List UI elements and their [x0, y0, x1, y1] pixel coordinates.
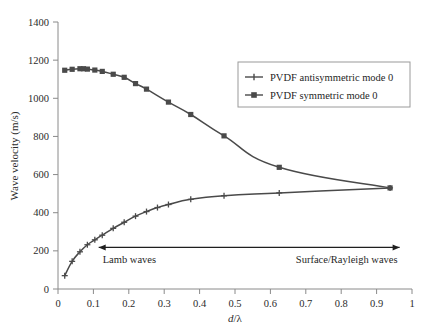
x-tick-label: 0.8	[335, 298, 348, 309]
figure-container: 0200400600800100012001400 00.10.20.30.40…	[0, 0, 430, 332]
x-tick-label: 1	[409, 298, 414, 309]
data-point-marker	[221, 133, 226, 138]
x-tick-label: 0.9	[370, 298, 383, 309]
y-axis-label: Wave velocity (m/s)	[8, 111, 21, 200]
chart-legend: PVDF antisymmetric mode 0PVDF symmetric …	[238, 62, 410, 107]
data-point-marker	[100, 69, 105, 74]
data-point-marker	[387, 185, 392, 190]
x-tick-label: 0.4	[193, 298, 207, 309]
y-tick-label: 1000	[28, 93, 49, 104]
x-tick-label: 0.5	[228, 298, 241, 309]
legend-entry-label: PVDF antisymmetric mode 0	[270, 72, 393, 83]
data-point-marker	[111, 72, 116, 77]
legend-entry-label: PVDF symmetric mode 0	[270, 90, 378, 101]
legend-square-marker-icon	[251, 92, 257, 98]
data-point-marker	[166, 100, 171, 105]
data-point-marker	[85, 67, 90, 72]
annotation-label-left: Lamb waves	[103, 254, 156, 265]
data-point-marker	[70, 67, 75, 72]
x-tick-label: 0.3	[158, 298, 171, 309]
data-point-marker	[122, 75, 127, 80]
x-tick-label: 0.7	[299, 298, 312, 309]
y-tick-label: 1200	[28, 55, 49, 66]
data-point-marker	[144, 87, 149, 92]
caption-strip	[0, 322, 430, 332]
data-point-marker	[133, 81, 138, 86]
y-tick-label: 200	[33, 245, 49, 256]
data-point-marker	[277, 165, 282, 170]
wave-velocity-chart: 0200400600800100012001400 00.10.20.30.40…	[0, 0, 430, 332]
y-tick-label: 600	[33, 169, 49, 180]
x-tick-label: 0.6	[264, 298, 277, 309]
x-tick-label: 0.1	[87, 298, 100, 309]
y-tick-label: 1400	[28, 17, 49, 28]
data-point-marker	[92, 67, 97, 72]
y-tick-label: 0	[44, 284, 49, 295]
y-tick-label: 800	[33, 131, 49, 142]
data-point-marker	[188, 112, 193, 117]
annotation-label-right: Surface/Rayleigh waves	[296, 254, 398, 265]
chart-background	[0, 0, 430, 332]
y-tick-label: 400	[33, 207, 49, 218]
x-tick-label: 0	[55, 298, 60, 309]
data-point-marker	[62, 68, 67, 73]
x-tick-label: 0.2	[122, 298, 135, 309]
